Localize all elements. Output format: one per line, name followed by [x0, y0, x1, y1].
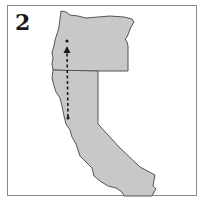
route-end-point — [65, 39, 68, 42]
map-illustration — [0, 0, 206, 204]
route-start-point — [66, 116, 69, 119]
oregon-region — [52, 11, 134, 71]
